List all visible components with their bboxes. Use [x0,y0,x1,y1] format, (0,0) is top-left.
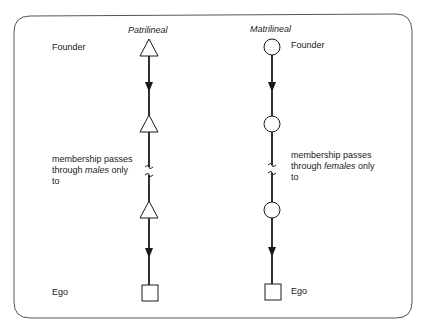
male-triangle-icon [140,201,158,218]
desc-emphasis: females [324,161,356,171]
patrilineal-desc-line2: through males only [52,165,128,176]
arrow-down-icon [268,247,276,257]
matrilineal-ego-label: Ego [291,286,307,297]
ego-square-icon [265,284,281,300]
desc-text: only [109,165,128,175]
desc-emphasis: males [85,165,109,175]
matrilineal-desc-line2: through females only [291,161,375,172]
ego-square-icon [142,285,158,301]
male-triangle-icon [140,115,158,132]
break-mark-icon [145,174,153,177]
desc-text: through [291,161,324,171]
matrilineal-desc-line1: membership passes [291,150,372,161]
desc-text: through [52,165,85,175]
arrow-down-icon [145,82,153,92]
break-mark-icon [145,166,153,169]
patrilineal-desc-line3: to [52,176,60,187]
patrilineal-ego-label: Ego [52,287,68,298]
matrilineal-founder-label: Founder [291,40,325,51]
arrow-down-icon [268,82,276,92]
female-founder-circle-icon [264,39,280,55]
arrow-down-icon [145,248,153,258]
matrilineal-title: Matrilineal [250,24,291,35]
patrilineal-desc-line1: membership passes [52,154,133,165]
female-circle-icon [264,202,280,218]
patrilineal-founder-label: Founder [52,42,86,53]
patrilineal-title: Patrilineal [128,25,168,36]
matrilineal-desc-line3: to [291,172,299,183]
break-mark-icon [268,172,276,175]
break-mark-icon [268,164,276,167]
female-circle-icon [264,116,280,132]
male-founder-triangle-icon [140,39,158,56]
desc-text: only [356,161,375,171]
